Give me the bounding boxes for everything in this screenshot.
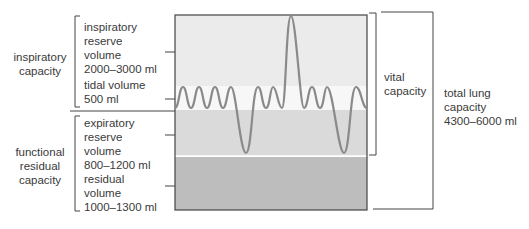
frc-bracket	[75, 116, 80, 211]
total-lung-capacity-bracket	[373, 12, 433, 209]
vital-capacity-label: vital capacity	[384, 70, 426, 98]
vital-capacity-bracket	[369, 13, 376, 155]
erv-label: expiratory reserve volume 800–1200 ml	[84, 116, 151, 172]
total-lung-capacity-label: total lung capacity 4300–6000 ml	[444, 86, 517, 128]
inspiratory-capacity-bracket	[75, 16, 80, 107]
residual-volume-label: residual volume 1000–1300 ml	[84, 172, 157, 214]
irv-label: inspiratory reserve volume 2000–3000 ml	[84, 20, 157, 76]
tidal-volume-label: tidal volume 500 ml	[84, 78, 145, 106]
irv-band	[175, 15, 367, 86]
rv-band	[175, 157, 367, 210]
frc-label: functional residual capacity	[10, 145, 70, 187]
inspiratory-capacity-label: inspiratory capacity	[10, 50, 70, 78]
